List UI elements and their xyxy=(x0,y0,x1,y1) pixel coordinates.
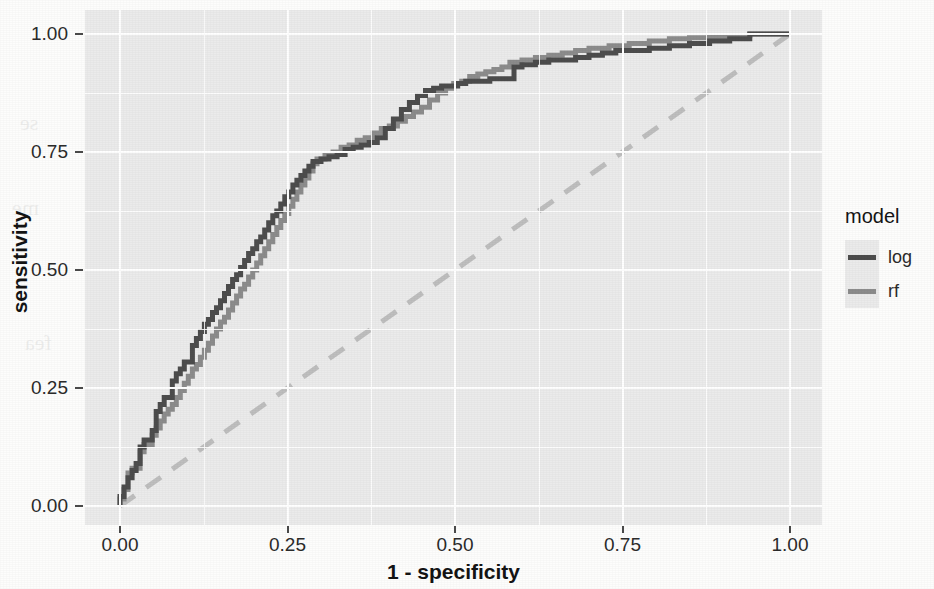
ghost-line-6: fea xyxy=(25,330,52,356)
legend-key-rf-icon xyxy=(845,274,879,308)
gridline-horizontal-minor xyxy=(85,93,822,94)
legend-item-rf[interactable]: rf xyxy=(845,274,912,308)
x-tick-mark xyxy=(622,526,624,533)
gridline-horizontal-minor xyxy=(85,329,822,330)
x-tick-mark xyxy=(454,526,456,533)
gridline-horizontal xyxy=(85,151,822,153)
x-tick-mark xyxy=(287,526,289,533)
y-axis-title: sensitivity xyxy=(8,197,32,327)
legend-label-log: log xyxy=(888,247,912,268)
gridline-horizontal xyxy=(85,269,822,271)
x-tick-label: 0.75 xyxy=(583,534,663,556)
gridline-horizontal-minor xyxy=(85,211,822,212)
plot-panel xyxy=(85,10,822,525)
x-tick-label: 1.00 xyxy=(750,534,830,556)
y-tick-label: 0.00 xyxy=(0,495,68,517)
x-tick-label: 0.00 xyxy=(80,534,160,556)
legend-title: model xyxy=(845,205,912,228)
y-tick-label: 0.25 xyxy=(0,377,68,399)
legend-item-log[interactable]: log xyxy=(845,240,912,274)
gridline-horizontal xyxy=(85,387,822,389)
legend-label-rf: rf xyxy=(888,281,899,302)
y-tick-label: 1.00 xyxy=(0,23,68,45)
x-axis-title: 1 - specificity xyxy=(0,560,907,584)
y-tick-mark xyxy=(75,505,83,507)
y-tick-mark xyxy=(75,33,83,35)
x-tick-label: 0.50 xyxy=(415,534,495,556)
x-tick-label: 0.25 xyxy=(248,534,328,556)
ghost-line-4: se xyxy=(20,110,38,136)
roc-chart-figure: assess ble. Ran ses in sp odel pro se me… xyxy=(0,0,934,589)
gridline-horizontal xyxy=(85,505,822,507)
x-tick-mark xyxy=(119,526,121,533)
legend: model log rf xyxy=(845,205,912,308)
x-tick-mark xyxy=(789,526,791,533)
gridline-horizontal xyxy=(85,33,822,35)
y-tick-mark xyxy=(75,151,83,153)
gridline-horizontal-minor xyxy=(85,447,822,448)
y-tick-mark xyxy=(75,269,83,271)
y-tick-label: 0.75 xyxy=(0,141,68,163)
y-tick-mark xyxy=(75,387,83,389)
legend-key-log-icon xyxy=(845,240,879,274)
